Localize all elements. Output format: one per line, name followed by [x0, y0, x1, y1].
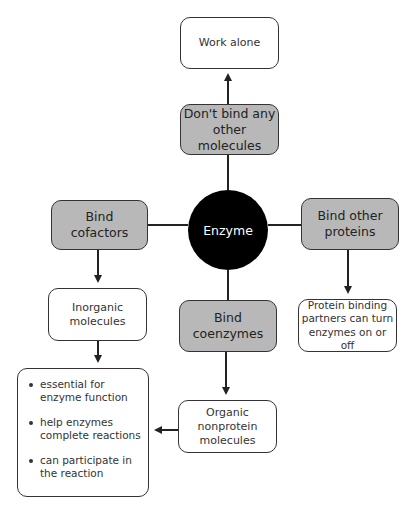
center-label: Enzyme [203, 223, 253, 238]
node-bind-cofactors: Bind cofactors [51, 200, 148, 250]
enzyme-center: Enzyme [188, 190, 268, 270]
node-label: Protein binding partners can turn enzyme… [301, 299, 394, 353]
node-label: Organic nonprotein molecules [191, 406, 264, 448]
node-protein-binding: Protein binding partners can turn enzyme… [298, 299, 397, 352]
node-label: Work alone [199, 36, 261, 50]
node-dont-bind: Don't bind any other molecules [180, 104, 279, 155]
node-work-alone: Work alone [180, 17, 279, 69]
node-bind-coenzymes: Bind coenzymes [179, 300, 277, 352]
bullet-item: help enzymes complete reactions [28, 416, 142, 442]
node-label: Don't bind any other molecules [183, 106, 276, 154]
node-label: Bind other proteins [312, 208, 388, 240]
bullet-item: essential for enzyme function [28, 378, 142, 404]
cofactor-properties-box: essential for enzyme function help enzym… [17, 368, 149, 497]
node-label: Bind cofactors [64, 209, 135, 241]
node-label: Bind coenzymes [182, 310, 274, 342]
bullet-item: can participate in the reaction [28, 454, 142, 480]
node-organic-nonprotein: Organic nonprotein molecules [178, 400, 277, 453]
node-inorganic-molecules: Inorganic molecules [48, 288, 147, 341]
node-label: Inorganic molecules [63, 301, 132, 329]
node-bind-other-proteins: Bind other proteins [301, 198, 399, 250]
